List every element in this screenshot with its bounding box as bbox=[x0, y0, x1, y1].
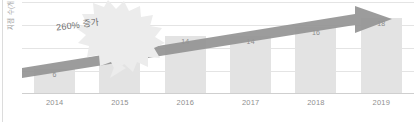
bar-2015[interactable]: 11 bbox=[99, 48, 140, 94]
x-tick-2014: 2014 bbox=[22, 98, 87, 107]
bar-2016[interactable]: 14 bbox=[165, 36, 206, 94]
x-tick-2019: 2019 bbox=[349, 98, 414, 107]
x-axis-line bbox=[22, 93, 414, 94]
x-tick-2015: 2015 bbox=[87, 98, 152, 107]
bar-slot: 14 bbox=[153, 2, 218, 94]
x-axis-tick-labels: 2014 2015 2016 2017 2018 2019 bbox=[22, 98, 414, 107]
bar-value-label: 11 bbox=[99, 50, 140, 57]
bar-slot: 6 bbox=[22, 2, 87, 94]
x-tick-2017: 2017 bbox=[218, 98, 283, 107]
y-axis-title: 지점 수(개) bbox=[5, 0, 15, 30]
bar-2014[interactable]: 6 bbox=[34, 69, 75, 94]
bar-chart-figure: 지점 수(개) 6 11 14 bbox=[0, 0, 416, 122]
x-tick-2016: 2016 bbox=[153, 98, 218, 107]
bar-2019[interactable]: 18 bbox=[361, 18, 402, 94]
bar-value-label: 14 bbox=[230, 38, 271, 45]
bar-value-label: 16 bbox=[295, 29, 336, 36]
x-tick-2018: 2018 bbox=[283, 98, 348, 107]
bar-2018[interactable]: 16 bbox=[295, 27, 336, 94]
figure-left-rule bbox=[2, 0, 3, 122]
bar-value-label: 6 bbox=[34, 71, 75, 78]
bar-2017[interactable]: 14 bbox=[230, 36, 271, 94]
bar-value-label: 18 bbox=[361, 20, 402, 27]
bar-slot: 18 bbox=[349, 2, 414, 94]
plot-area: 6 11 14 14 16 bbox=[22, 2, 414, 94]
bar-slot: 11 bbox=[87, 2, 152, 94]
bar-series: 6 11 14 14 16 bbox=[22, 2, 414, 94]
bar-slot: 14 bbox=[218, 2, 283, 94]
bar-slot: 16 bbox=[283, 2, 348, 94]
bar-value-label: 14 bbox=[165, 38, 206, 45]
